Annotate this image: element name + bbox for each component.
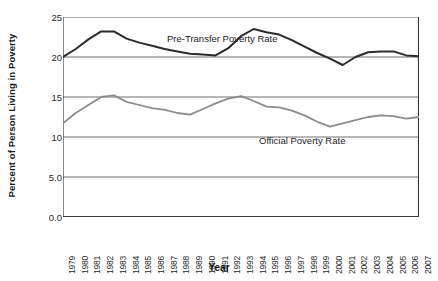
y-axis-title: Percent of Person Living in Poverty (7, 33, 18, 197)
plot-svg (63, 17, 419, 217)
y-tick-label: 0.0 (28, 212, 62, 223)
x-axis-title: Year (0, 262, 438, 273)
y-tick-label: 25 (28, 12, 62, 23)
y-tick-label: 15 (28, 92, 62, 103)
series-label-pre-transfer-poverty-rate: Pre-Transfer Poverty Rate (167, 33, 278, 44)
y-axis-tick-labels: 0.05.010152025 (24, 0, 62, 281)
y-tick-label: 10 (28, 132, 62, 143)
y-axis-title-wrap: Percent of Person Living in Poverty (0, 0, 24, 230)
y-tick-label: 5.0 (28, 172, 62, 183)
plot-area: Pre-Transfer Poverty Rate Official Pover… (63, 17, 419, 217)
poverty-rate-line-chart: Percent of Person Living in Poverty 0.05… (0, 0, 438, 281)
series-line-official-poverty-rate (63, 95, 419, 126)
series-label-official-poverty-rate: Official Poverty Rate (259, 135, 345, 146)
y-tick-label: 20 (28, 52, 62, 63)
